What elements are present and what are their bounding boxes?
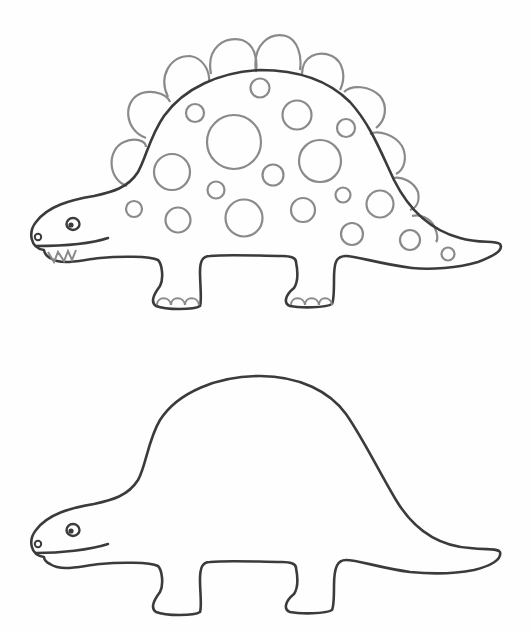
back-plates bbox=[112, 35, 438, 242]
body-outline-plain bbox=[31, 376, 500, 615]
plain-dinosaur bbox=[31, 376, 500, 615]
mouth-plain bbox=[36, 544, 108, 553]
eye bbox=[67, 218, 80, 230]
body-spots bbox=[126, 79, 455, 261]
toes bbox=[157, 298, 332, 305]
nostril-plain bbox=[35, 541, 41, 547]
eye-plain bbox=[67, 524, 80, 536]
teeth bbox=[48, 250, 76, 262]
decorated-dinosaur bbox=[31, 35, 501, 309]
body-outline bbox=[31, 70, 501, 309]
coloring-page bbox=[0, 0, 531, 632]
mouth bbox=[36, 238, 108, 246]
nostril bbox=[35, 234, 41, 240]
